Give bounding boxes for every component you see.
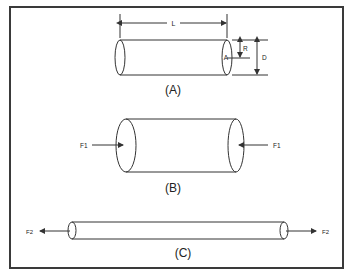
- area-label: A: [224, 54, 229, 61]
- force-f2-left-label: F2: [26, 229, 34, 235]
- force-f1-left-label: F1: [80, 142, 88, 149]
- force-f2-right-label: F2: [322, 229, 330, 235]
- length-label: L: [172, 20, 176, 27]
- caption-b: (B): [165, 181, 181, 195]
- diameter-label: D: [262, 54, 267, 61]
- radius-label: R: [243, 45, 248, 52]
- panel-c: [40, 222, 316, 239]
- diagram-canvas: L A R D (A) F1 F1 (B) F2 F2 (C): [0, 0, 352, 279]
- force-f1-right-label: F1: [273, 142, 281, 149]
- caption-a: (A): [165, 83, 181, 97]
- panel-b: [92, 119, 268, 172]
- caption-c: (C): [175, 246, 192, 260]
